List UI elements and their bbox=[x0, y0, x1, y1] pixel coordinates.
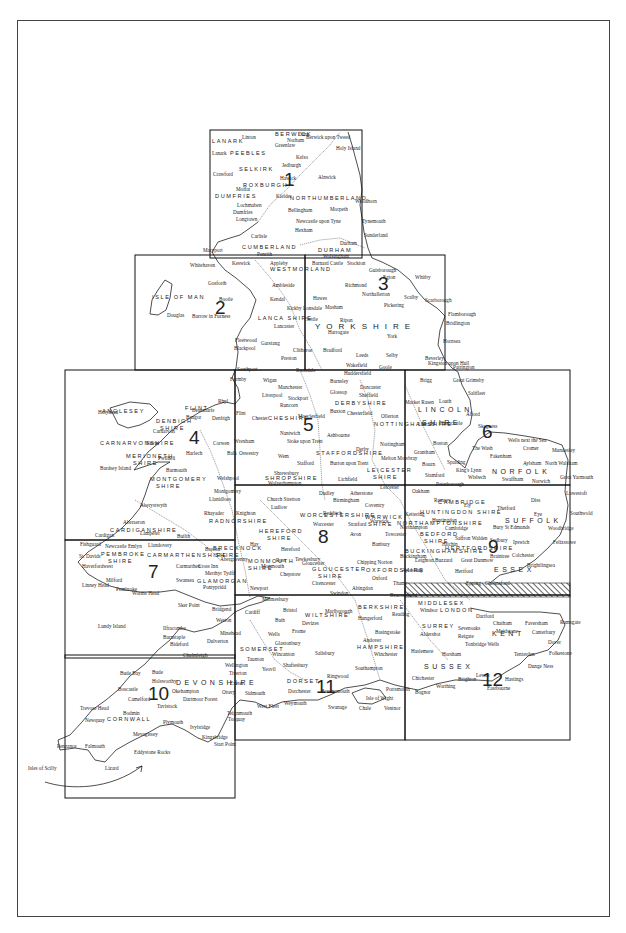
town-label: Epping bbox=[466, 580, 481, 586]
town-label: Worms Head bbox=[132, 590, 159, 596]
town-label: Lochmaben bbox=[237, 202, 262, 208]
town-label: Chesterfield bbox=[347, 410, 372, 416]
town-label: Fakenham bbox=[490, 453, 512, 459]
town-label: Harrogate bbox=[328, 329, 349, 335]
town-label: Falmouth bbox=[85, 743, 105, 749]
town-label: Bodmin bbox=[123, 710, 140, 716]
town-label: Hornsea bbox=[443, 338, 460, 344]
town-label: Greenlaw bbox=[275, 142, 295, 148]
town-label: Guisborough bbox=[369, 267, 396, 273]
town-label: Garstang bbox=[261, 340, 280, 346]
town-label: Holy Island bbox=[336, 145, 360, 151]
town-label: Egton bbox=[383, 274, 395, 280]
town-label: Lincoln bbox=[418, 421, 434, 427]
town-label: Weymouth bbox=[284, 700, 307, 706]
town-label: Thame bbox=[393, 580, 407, 586]
town-label: Goole bbox=[379, 364, 392, 370]
town-label: Settle bbox=[306, 316, 318, 322]
town-label: Chale bbox=[359, 705, 371, 711]
town-label: Bala bbox=[227, 450, 237, 456]
town-label: Wellington bbox=[225, 662, 248, 668]
town-label: Camelford bbox=[128, 696, 150, 702]
town-label: Trevose Head bbox=[80, 705, 109, 711]
town-label: Wigan bbox=[263, 377, 277, 383]
town-label: Carnarvon bbox=[153, 428, 175, 434]
county-label: WESTMORLAND bbox=[270, 266, 332, 272]
town-label: Sker Point bbox=[178, 602, 200, 608]
town-label: Salisbury bbox=[315, 650, 335, 656]
town-label: Patrington bbox=[453, 364, 475, 370]
town-label: Church Stretton bbox=[267, 496, 300, 502]
town-label: Nantwich bbox=[280, 430, 300, 436]
town-label: Marlborough bbox=[325, 608, 352, 614]
town-label: Ludlow bbox=[271, 504, 287, 510]
town-label: Braintree bbox=[490, 553, 509, 559]
town-label: Liverpool bbox=[262, 392, 282, 398]
town-label: Lanark bbox=[212, 150, 227, 156]
town-label: Macclesfield bbox=[298, 413, 325, 419]
town-label: Whitby bbox=[415, 274, 431, 280]
town-label: Malmesbury bbox=[262, 596, 288, 602]
town-label: Worcester bbox=[313, 521, 334, 527]
town-label: Holsworthy bbox=[152, 678, 177, 684]
town-label: Formby bbox=[230, 376, 246, 382]
town-label: Skegness bbox=[478, 423, 497, 429]
county-label: CUMBERLAND bbox=[242, 244, 297, 250]
town-label: Carlisle bbox=[251, 233, 267, 239]
town-label: King's Lynn bbox=[456, 467, 481, 473]
county-label: DERBYSHIRE bbox=[335, 400, 387, 406]
town-label: Lancaster bbox=[274, 323, 294, 329]
section-number: 10 bbox=[148, 684, 169, 703]
county-label: PEEBLES bbox=[230, 150, 267, 156]
town-label: Ramsgate bbox=[560, 619, 580, 625]
town-label: Hastings bbox=[505, 676, 523, 682]
town-label: Morpeth bbox=[330, 206, 348, 212]
town-label: Monmouth bbox=[261, 563, 284, 569]
town-label: Bradford bbox=[323, 347, 342, 353]
town-label: Wells bbox=[268, 631, 280, 637]
county-label: SHIRE bbox=[373, 474, 398, 480]
town-label: Eastbourne bbox=[487, 685, 510, 691]
town-label: Blackpool bbox=[234, 345, 255, 351]
town-label: Brecon bbox=[205, 546, 220, 552]
town-label: Wrexham bbox=[234, 438, 254, 444]
county-label: LONDON bbox=[440, 607, 474, 613]
town-label: Windsor bbox=[420, 607, 438, 613]
town-label: Newcastle upon Tyne bbox=[296, 218, 341, 224]
town-label: Northampton bbox=[400, 524, 428, 530]
county-label: ISLE OF MAN bbox=[152, 294, 205, 300]
town-label: Penzance bbox=[57, 743, 77, 749]
town-label: Coventry bbox=[365, 502, 384, 508]
town-label: Taunton bbox=[247, 656, 264, 662]
town-label: Aberystwyth bbox=[140, 502, 167, 508]
town-label: Bognor bbox=[415, 689, 431, 695]
town-label: North Walsham bbox=[545, 460, 577, 466]
town-label: Hexham bbox=[295, 227, 313, 233]
town-label: Bury St Edmunds bbox=[493, 524, 530, 530]
county-label: SHIRE bbox=[156, 483, 181, 489]
town-label: Dudley bbox=[319, 490, 334, 496]
town-label: Cardiff bbox=[245, 609, 260, 615]
town-label: Tiverton bbox=[229, 670, 247, 676]
town-label: Lundy Island bbox=[98, 623, 126, 629]
town-label: Richmond bbox=[345, 282, 367, 288]
town-label: Moffat bbox=[236, 186, 250, 192]
town-label: Ventnor bbox=[384, 705, 400, 711]
town-label: Corwen bbox=[213, 440, 229, 446]
town-label: Southport bbox=[237, 366, 257, 372]
town-label: Felixstowe bbox=[553, 539, 576, 545]
town-label: Barmouth bbox=[166, 467, 187, 473]
town-label: Peterborough bbox=[436, 481, 464, 487]
town-label: Harlech bbox=[186, 450, 202, 456]
town-label: Great Grimsby bbox=[453, 377, 484, 383]
town-label: Hawick bbox=[280, 175, 296, 181]
town-label: Colchester bbox=[512, 552, 534, 558]
town-label: Aldershot bbox=[420, 631, 440, 637]
town-label: Stratford bbox=[348, 521, 366, 527]
section-number: 7 bbox=[148, 562, 159, 581]
town-label: Maryport bbox=[203, 247, 223, 253]
town-label: Bangor bbox=[186, 414, 201, 420]
section-number: 4 bbox=[189, 428, 200, 447]
town-label: Knighton bbox=[236, 510, 256, 516]
county-label: MONTGOMERY bbox=[150, 476, 207, 482]
